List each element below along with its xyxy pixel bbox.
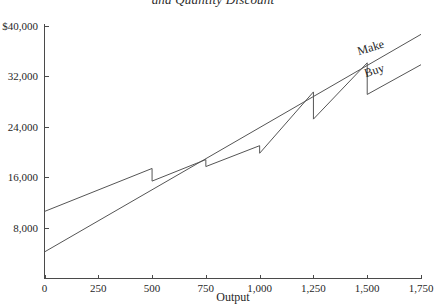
y-axis-tick-label: $40,000: [0, 20, 38, 32]
y-axis-tick-label: 16,000: [0, 171, 38, 183]
y-axis-tick-label: 32,000: [0, 70, 38, 82]
x-axis-tick-label: 0: [20, 282, 70, 294]
x-axis-tick-label: 250: [73, 282, 123, 294]
x-axis-ticks: [46, 275, 422, 279]
chart-axes: [45, 24, 422, 279]
y-axis-tick-label: 24,000: [0, 121, 38, 133]
x-axis-tick-label: 1,500: [342, 282, 392, 294]
y-axis-ticks: [45, 27, 49, 229]
x-axis-tick-label: 1,750: [396, 282, 438, 294]
y-axis-tick-label: 8,000: [0, 222, 38, 234]
series-line-buy: [45, 63, 422, 212]
x-axis-title: Output: [163, 290, 303, 305]
